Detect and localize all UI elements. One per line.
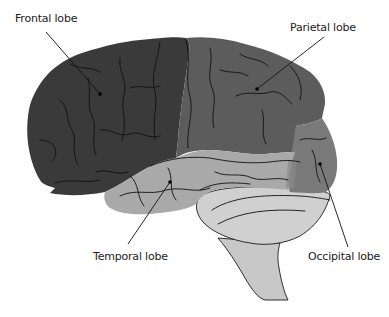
- brain-lobes-diagram: Frontal lobe Parietal lobe Temporal lobe…: [0, 0, 389, 317]
- frontal-lobe-label: Frontal lobe: [15, 12, 77, 25]
- cerebellum-region: [196, 187, 330, 245]
- brainstem-region: [218, 238, 288, 300]
- brain-illustration: [0, 0, 389, 317]
- occipital-lobe-label: Occipital lobe: [308, 250, 380, 263]
- parietal-lobe-label: Parietal lobe: [290, 21, 356, 34]
- temporal-lobe-label: Temporal lobe: [93, 250, 168, 263]
